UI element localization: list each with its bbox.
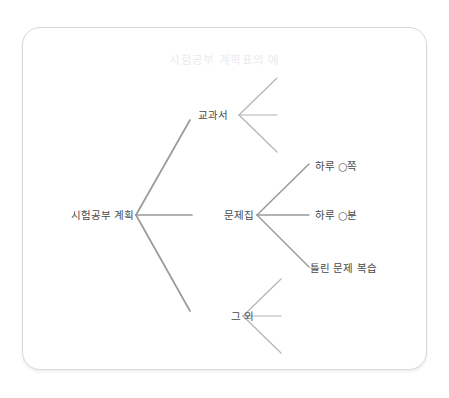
root-branch-line-2 bbox=[136, 215, 190, 311]
node-branch-workbook-label: 문제집 bbox=[196, 210, 254, 221]
diagram-stage: 시험공부 계획표의 예 시험공부 계획 교과서 문제집 그 외 하루 ○쪽 하루… bbox=[0, 0, 449, 398]
node-branch-others-label: 그 외 bbox=[196, 311, 254, 322]
node-branch-textbook-label: 교과서 bbox=[170, 110, 228, 121]
workbook-child-line-2 bbox=[257, 215, 309, 267]
root-branch-line-0 bbox=[136, 120, 190, 215]
textbook-fan-lines bbox=[239, 78, 277, 152]
textbook-child-line-0 bbox=[239, 78, 277, 115]
workbook-fan-lines bbox=[257, 164, 309, 267]
node-leaf-review-mistakes-label: 틀린 문제 복습 bbox=[310, 263, 430, 274]
node-leaf-pages-per-day-label: 하루 ○쪽 bbox=[315, 161, 425, 172]
workbook-child-line-0 bbox=[257, 164, 309, 215]
node-leaf-minutes-per-day-label: 하루 ○분 bbox=[315, 210, 425, 221]
diagram-title: 시험공부 계획표의 예 bbox=[0, 51, 449, 67]
textbook-child-line-2 bbox=[239, 115, 277, 152]
root-fan-lines bbox=[136, 120, 192, 311]
node-root-label: 시험공부 계획 bbox=[48, 210, 134, 221]
